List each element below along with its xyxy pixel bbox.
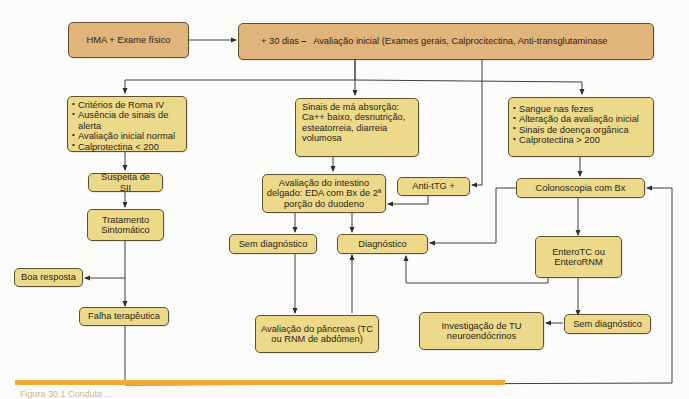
- node-anti-ttg-label: Anti-tTG +: [412, 181, 455, 191]
- node-hma: HMA + Exame físico: [68, 22, 189, 58]
- organic-signs-list: Sangue nas fezesAlteração da avaliação i…: [513, 104, 639, 146]
- arrow-initial-to-antittg: [472, 58, 482, 185]
- node-diagnosis-label: Diagnóstico: [358, 239, 407, 249]
- node-sii-suspect: Suspeita de SII: [88, 173, 163, 192]
- node-organic-signs: Sangue nas fezesAlteração da avaliação i…: [508, 97, 654, 157]
- node-therapeutic-failure: Falha terapêutica: [79, 307, 169, 326]
- node-initial-evaluation: + 30 dias – Avaliação inicial (Exames ge…: [238, 23, 654, 60]
- roma-criteria-item: Critérios de Roma IV: [72, 100, 182, 110]
- node-good-response-label: Boa resposta: [21, 272, 76, 282]
- arrow-enterotc-to-diag: [406, 256, 548, 283]
- organic-sign-item: Sangue nas fezes: [513, 104, 639, 114]
- node-net-investigation-label: Investigação de TU neuroendócrinos: [438, 321, 525, 342]
- node-symptomatic-label: Tratamento Sintomático: [93, 215, 158, 236]
- figure-caption: Figura 30.1 Conduta ...: [20, 389, 112, 399]
- node-pancreas-label: Avaliação do pâncreas (TC ou RNM de abdô…: [261, 324, 373, 345]
- node-no-diagnosis-1-label: Sem diagnóstico: [239, 239, 308, 249]
- node-enterotc: EnteroTC ou EnteroRNM: [535, 236, 622, 278]
- node-no-diagnosis-1: Sem diagnóstico: [229, 234, 317, 254]
- node-small-bowel: Avaliação do intestino delgado: EDA com …: [262, 174, 386, 213]
- node-enterotc-label: EnteroTC ou EnteroRNM: [541, 247, 616, 268]
- node-no-diagnosis-2: Sem diagnóstico: [564, 314, 651, 334]
- node-initial-dash: –: [301, 36, 306, 46]
- node-anti-ttg: Anti-tTG +: [397, 177, 470, 196]
- node-no-diagnosis-2-label: Sem diagnóstico: [573, 319, 642, 329]
- node-colonoscopy: Colonoscopia com Bx: [516, 178, 645, 198]
- organic-sign-item: Calprotectina > 200: [513, 135, 639, 145]
- node-malabsorption-label: Sinais de má absorção: Ca++ baixo, desnu…: [302, 102, 412, 144]
- node-symptomatic-treatment: Tratamento Sintomático: [87, 209, 164, 241]
- arrow-colonoscopy-to-diag: [430, 188, 517, 243]
- node-diagnosis: Diagnóstico: [337, 234, 428, 254]
- node-sii-suspect-label: Suspeita de SII: [94, 172, 157, 193]
- node-initial-text: Avaliação inicial (Exames gerais, Calpro…: [313, 36, 607, 46]
- line-initial-to-organic: [355, 80, 582, 94]
- node-malabsorption: Sinais de má absorção: Ca++ baixo, desnu…: [295, 98, 419, 157]
- node-initial-prefix: + 30 dias: [261, 36, 299, 46]
- node-good-response: Boa resposta: [14, 268, 83, 287]
- roma-criteria-item: Avaliação inicial normal: [72, 131, 182, 141]
- node-colonoscopy-label: Colonoscopia com Bx: [536, 183, 626, 193]
- node-small-bowel-label: Avaliação do intestino delgado: EDA com …: [266, 178, 382, 209]
- roma-criteria-item: Ausência de sinais de alerta: [72, 110, 182, 131]
- organic-sign-item: Alteração da avaliação inicial: [513, 114, 639, 124]
- node-pancreas: Avaliação do pâncreas (TC ou RNM de abdô…: [255, 315, 379, 353]
- node-roma-criteria: Critérios de Roma IVAusência de sinais d…: [67, 96, 187, 152]
- node-failure-label: Falha terapêutica: [88, 311, 160, 321]
- node-hma-label: HMA + Exame físico: [87, 35, 171, 45]
- organic-sign-item: Sinais de doença orgânica: [513, 125, 639, 135]
- node-net-investigation: Investigação de TU neuroendócrinos: [419, 312, 544, 350]
- arrow-antittg-to-smallbowel: [388, 196, 428, 204]
- line-failure-loop: [125, 188, 672, 385]
- roma-criteria-item: Calprotectina < 200: [72, 142, 182, 152]
- roma-criteria-list: Critérios de Roma IVAusência de sinais d…: [72, 100, 182, 152]
- caption-rule: [15, 380, 505, 385]
- line-initial-branch: [125, 58, 355, 93]
